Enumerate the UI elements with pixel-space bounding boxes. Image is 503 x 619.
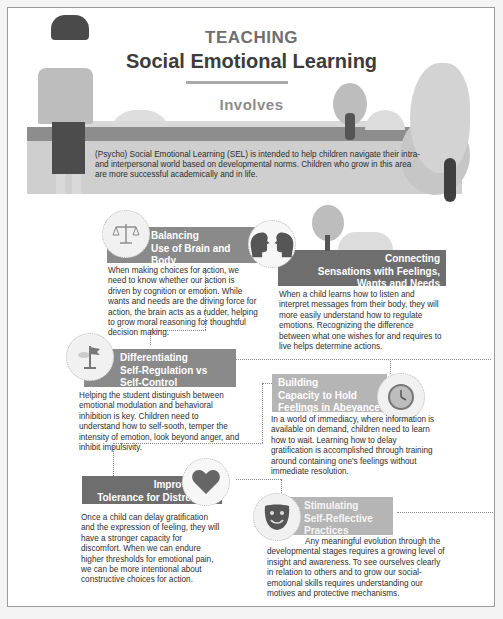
clock-icon — [377, 373, 425, 421]
connector — [236, 479, 281, 480]
bush-decoration — [338, 232, 393, 250]
card-body: In a world of immediacy, where informati… — [271, 415, 436, 477]
card-title-line: Sensations with Feelings, — [284, 266, 440, 279]
connector — [262, 383, 272, 384]
person-leg-left — [56, 174, 65, 194]
card-title-line: Practices — [304, 525, 387, 538]
card-title-line: Feelings in Abeyance — [278, 402, 381, 415]
flag-icon — [66, 333, 114, 381]
mask-icon — [253, 493, 301, 541]
connector — [233, 359, 491, 360]
card-title-line: Wants and Needs — [284, 278, 440, 291]
scale-icon — [102, 210, 150, 258]
person-leg-right — [72, 174, 81, 194]
tree-trunk-decoration — [325, 235, 330, 251]
card-body: Any meaningful evolution through the dev… — [267, 537, 445, 599]
card-body: When a child learns how to listen and in… — [279, 290, 444, 352]
card-title-line: Stimulating — [304, 500, 387, 513]
title-teaching: TEACHING — [0, 28, 503, 48]
connector — [397, 512, 493, 513]
card-title-line: Building — [278, 377, 381, 390]
card-title-line: Self-Reflective — [304, 513, 387, 526]
card-body: Helping the student distinguish between … — [79, 391, 241, 453]
card-building-bar: Building Capacity to Hold Feelings in Ab… — [272, 374, 387, 412]
big-tree-trunk — [444, 158, 456, 202]
card-body: When making choices for action, we need … — [108, 266, 258, 339]
card-title-line: Capacity to Hold — [278, 390, 381, 403]
card-body: Once a child can delay gratification and… — [81, 513, 223, 586]
small-tree-trunk — [345, 113, 355, 140]
title-divider — [186, 81, 288, 84]
card-title-line: Self-Control — [120, 377, 230, 390]
card-title-line: Connecting — [284, 253, 440, 266]
heart-icon — [182, 458, 230, 506]
card-title-line: Differentiating — [120, 352, 230, 365]
page-title: Social Emotional Learning — [0, 50, 503, 73]
person-pants — [52, 122, 85, 174]
card-title-line: Self-Regulation vs — [120, 365, 230, 378]
two-heads-icon — [248, 220, 296, 268]
connector — [262, 383, 263, 443]
card-stimulating-bar: Stimulating Self-Reflective Practices — [290, 497, 393, 535]
intro-text: (Psycho) Social Emotional Learning (SEL)… — [95, 150, 425, 180]
card-connecting-bar: Connecting Sensations with Feelings, Wan… — [278, 250, 446, 286]
connector — [390, 359, 391, 374]
subtitle-involves: Involves — [0, 96, 503, 113]
